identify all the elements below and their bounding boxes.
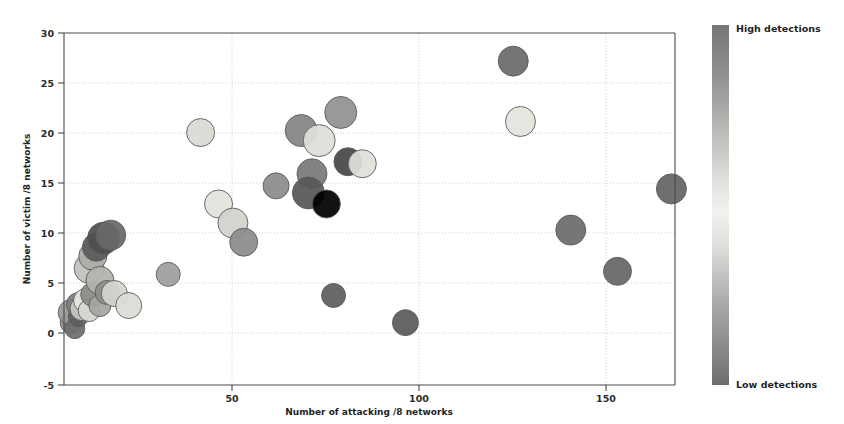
y-tick-label: 5 [47,278,54,289]
colorbar-gradient [712,25,729,385]
chart-canvas: 30 25 20 15 10 5 0 -5 50 100 150 Number … [0,0,844,424]
y-tick-label: 0 [47,328,54,339]
data-point-bubble [348,150,376,178]
data-point-bubble [603,257,631,285]
y-tick-label: 20 [41,128,55,139]
x-tick-label: 50 [225,393,239,404]
x-tick-label: 150 [596,393,616,404]
colorbar-low-label: Low detections [736,379,818,390]
data-point-bubble [392,310,418,336]
y-tick-label: 30 [41,28,55,39]
data-point-bubble [96,220,126,250]
x-tick-label: 100 [409,393,429,404]
data-point-bubble [156,262,180,286]
data-point-bubble [230,228,258,256]
scatter-plot-figure: 30 25 20 15 10 5 0 -5 50 100 150 Number … [0,0,844,424]
data-point-bubble [263,173,289,199]
y-tick-label: 10 [41,228,55,239]
data-point-bubble [303,125,335,157]
y-axis-title: Number of victim /8 networks [22,134,32,285]
y-tick-label: 25 [41,78,54,89]
colorbar-high-label: High detections [736,23,821,34]
y-tick-label: -5 [43,380,54,391]
data-point-bubble [116,293,142,319]
data-point-bubble [556,215,586,245]
data-point-bubble [325,96,357,128]
data-point-bubble [187,119,215,147]
data-point-bubble [322,283,346,307]
data-point-bubble [656,174,686,204]
y-tick-label: 15 [41,178,54,189]
data-point-bubble [312,190,340,218]
plot-area-background [64,33,675,385]
data-point-bubble [505,107,535,137]
data-point-bubble [498,46,528,76]
x-axis-title: Number of attacking /8 networks [285,407,453,417]
